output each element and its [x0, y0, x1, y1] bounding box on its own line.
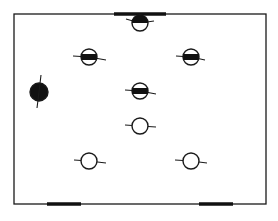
- room-outline: [14, 14, 266, 204]
- shading-band: [132, 15, 148, 23]
- figure-row2-left: [73, 49, 106, 65]
- figure-bottom-right: [175, 153, 207, 169]
- figure-top-center: [126, 15, 154, 31]
- figure-left-solid: [30, 75, 48, 108]
- figure-row2-right: [176, 49, 205, 65]
- head-circle-icon: [81, 153, 97, 169]
- floor-plan-diagram: [0, 0, 278, 221]
- head-circle-icon: [183, 153, 199, 169]
- figure-center-open: [125, 118, 156, 134]
- shading-band: [132, 88, 148, 94]
- figures-group: [30, 15, 207, 169]
- head-circle-icon: [132, 118, 148, 134]
- shading-band: [81, 54, 97, 60]
- wall-segments: [47, 14, 233, 204]
- figure-bottom-left: [74, 153, 106, 169]
- figure-center-banded: [125, 83, 156, 99]
- shading-band: [183, 54, 199, 60]
